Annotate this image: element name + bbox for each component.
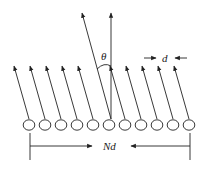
aperture-label: Nd [102, 140, 116, 152]
array-element [135, 120, 147, 130]
beam-arrow [62, 66, 77, 119]
beam-arrows [14, 66, 189, 119]
beam-arrow [126, 66, 141, 119]
array-elements [23, 120, 195, 130]
array-element [183, 120, 195, 130]
theta-label: θ [101, 50, 107, 62]
array-element [119, 120, 131, 130]
array-diagram: θ d Nd [0, 0, 204, 174]
array-element [23, 120, 35, 130]
steered-beam-arrow [82, 13, 111, 119]
array-element [167, 120, 179, 130]
array-element [87, 120, 99, 130]
array-element [71, 120, 83, 130]
beam-arrow [142, 66, 157, 119]
array-element [103, 120, 115, 130]
array-element [151, 120, 163, 130]
beam-arrow [174, 66, 189, 119]
theta-arc [97, 65, 111, 69]
beam-arrow [30, 66, 45, 119]
array-element [55, 120, 67, 130]
beam-arrow [110, 66, 125, 119]
beam-arrow [14, 66, 29, 119]
beam-arrow [78, 66, 93, 119]
beam-arrow [46, 66, 61, 119]
array-element [39, 120, 51, 130]
spacing-label: d [162, 52, 168, 64]
beam-arrow [158, 66, 173, 119]
